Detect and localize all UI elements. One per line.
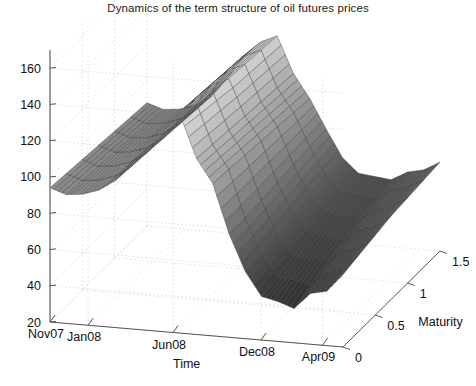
y-tick-label: 0	[355, 351, 362, 365]
z-tick-label: 80	[27, 207, 41, 221]
surface-plot-axes: 20406080100120140160Nov07Jan08Jun08Dec08…	[0, 0, 476, 386]
x-tick-label: Apr09	[302, 350, 335, 364]
y-tick-label: 0.5	[387, 319, 404, 333]
surface-mesh	[50, 36, 440, 309]
z-tick-label: 40	[27, 279, 41, 293]
x-tick-label: Nov07	[28, 327, 64, 341]
z-tick-label: 160	[20, 62, 41, 76]
y-axis-label: Maturity	[418, 315, 463, 329]
z-tick-label: 60	[27, 243, 41, 257]
z-tick-label: 140	[20, 98, 41, 112]
z-tick-label: 120	[20, 134, 41, 148]
x-tick-label: Dec08	[239, 345, 275, 359]
z-tick-label: 100	[20, 170, 41, 184]
x-tick-label: Jan08	[67, 330, 101, 344]
x-axis-label: Time	[173, 357, 200, 371]
x-tick-label: Jun08	[152, 338, 186, 352]
y-tick-label: 1.5	[452, 255, 469, 269]
figure-canvas: Dynamics of the term structure of oil fu…	[0, 0, 476, 386]
y-tick-label: 1	[420, 287, 427, 301]
